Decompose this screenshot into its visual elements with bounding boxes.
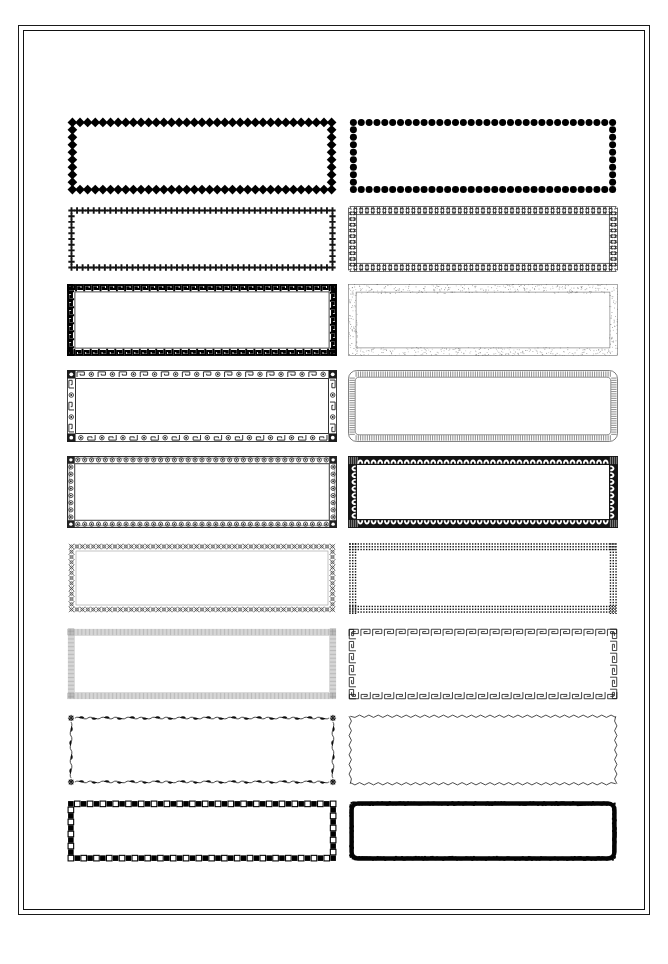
frame-fine-rule-hatch-frame[interactable] <box>67 628 337 700</box>
vertical-hatch-border-icon <box>67 628 337 700</box>
square-dot-border-icon <box>348 542 618 614</box>
frame-vine-leaf-frame[interactable] <box>67 714 337 786</box>
frame-scroll-wave-frame[interactable] <box>348 456 618 528</box>
greek-key-border-icon <box>67 284 337 356</box>
cross-pattee-border-icon <box>348 206 618 272</box>
frame-rounded-comb-hatch-frame[interactable] <box>348 370 618 442</box>
cross-border-icon <box>67 206 337 272</box>
frame-greek-key-roundel-frame[interactable] <box>67 370 337 442</box>
frame-cross-pattee-frame[interactable] <box>348 206 618 272</box>
checker-border-icon <box>67 800 337 862</box>
frame-greek-key-solid-frame[interactable] <box>67 284 337 356</box>
eyelet-border-icon <box>67 456 337 528</box>
greek-key-with-roundels-border-icon <box>67 370 337 442</box>
frame-bold-diamond-bead-frame[interactable] <box>67 117 337 195</box>
diamond-border-icon <box>67 117 337 195</box>
stipple-border-icon <box>348 284 618 356</box>
scroll-wave-border-icon <box>348 456 618 528</box>
frame-greek-key-outline-frame[interactable] <box>348 628 618 700</box>
frame-small-cross-frame[interactable] <box>67 206 337 272</box>
frame-square-dot-grid-frame[interactable] <box>348 542 618 614</box>
vine-leaf-border-icon <box>67 714 337 786</box>
frame-rough-brush-frame[interactable] <box>348 800 618 862</box>
frame-checker-square-frame[interactable] <box>67 800 337 862</box>
frame-lattice-diaper-frame[interactable] <box>67 542 337 614</box>
lattice-border-icon <box>67 542 337 614</box>
frame-stipple-texture-frame[interactable] <box>348 284 618 356</box>
greek-key-border-icon <box>348 628 618 700</box>
frames-grid <box>23 30 645 910</box>
decorative-frames-sheet <box>0 0 668 964</box>
rough-brush-border-icon <box>348 800 618 862</box>
circle-border-icon <box>348 117 618 195</box>
frame-eyelet-dot-frame[interactable] <box>67 456 337 528</box>
frame-bold-dot-bead-frame[interactable] <box>348 117 618 195</box>
zigzag-border-icon <box>348 714 618 786</box>
comb-hatch-border-icon <box>348 370 618 442</box>
frame-zigzag-line-frame[interactable] <box>348 714 618 786</box>
